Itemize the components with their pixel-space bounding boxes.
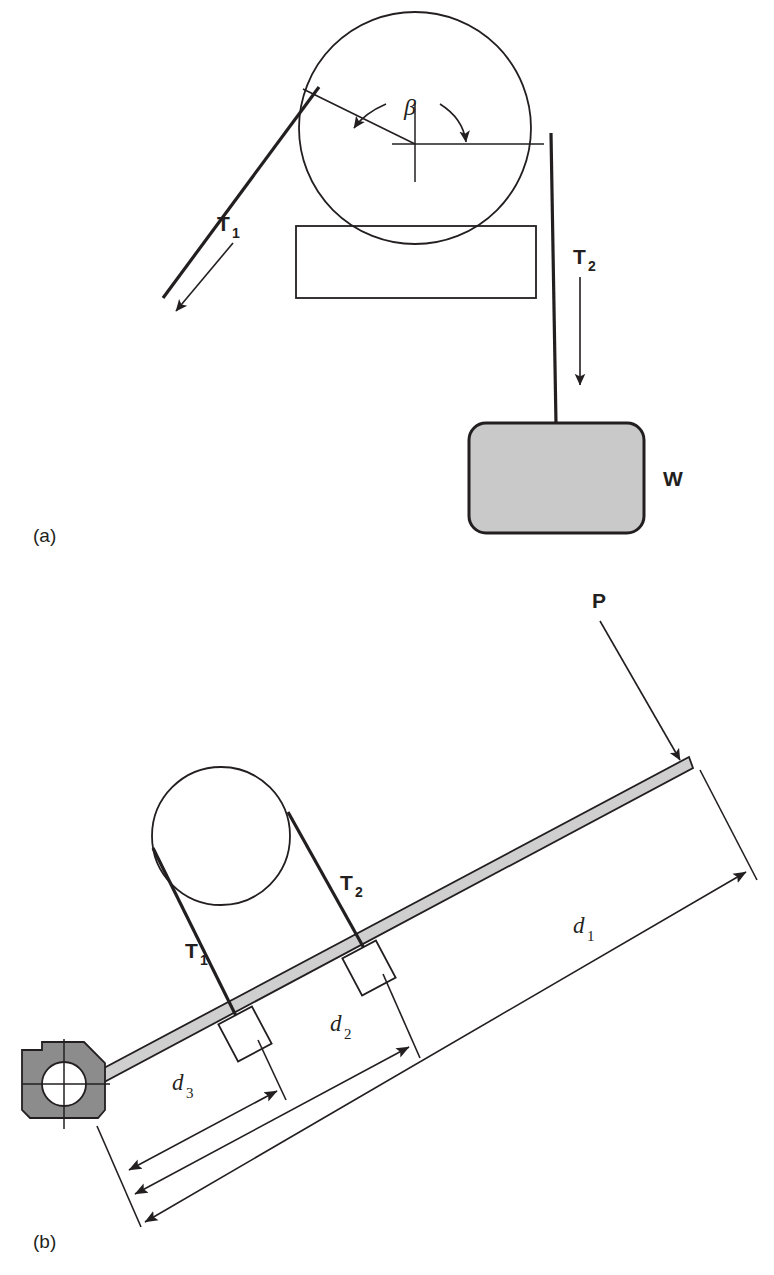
t1-label-a: T	[217, 212, 230, 235]
wrap-angle-radius-a	[303, 89, 415, 144]
lever-arm-b	[72, 757, 693, 1096]
t1-force-arrow-a	[176, 243, 233, 311]
panel-b-caption: (b)	[33, 1231, 56, 1252]
panel-b: T 1 T 2 P d 3	[22, 589, 757, 1252]
d2-subscript-b: 2	[344, 1026, 352, 1042]
band-brake-figure: β T 1 T 2 W (a)	[0, 0, 774, 1275]
t2-subscript-a: 2	[588, 258, 596, 274]
beta-label-a: β	[403, 94, 416, 120]
band-t2-b	[288, 812, 365, 950]
weight-label-a: W	[663, 467, 683, 490]
t2-label-b: T	[340, 871, 353, 894]
d1-label-b: d	[573, 913, 585, 938]
force-p-label-b: P	[592, 589, 606, 612]
support-block-a	[296, 226, 536, 298]
d2-label-b: d	[330, 1011, 342, 1036]
t1-label-b: T	[185, 939, 198, 962]
extension-line-d1-b	[700, 770, 757, 880]
band-t1-b	[153, 848, 243, 1030]
band-right-a	[551, 133, 556, 424]
extension-line-pivot-b	[97, 1126, 141, 1227]
weight-block-a	[469, 423, 644, 533]
figure-root: β T 1 T 2 W (a)	[0, 0, 774, 1275]
extension-line-d2-b	[383, 974, 420, 1058]
t2-subscript-b: 2	[355, 884, 363, 900]
panel-a: β T 1 T 2 W (a)	[33, 12, 683, 546]
extension-line-d3-b	[258, 1040, 286, 1100]
t1-subscript-b: 1	[200, 952, 208, 968]
d1-subscript-b: 1	[587, 928, 595, 944]
d3-label-b: d	[172, 1070, 184, 1095]
t1-subscript-a: 1	[232, 225, 240, 241]
panel-a-caption: (a)	[33, 525, 56, 546]
t2-label-a: T	[573, 245, 586, 268]
force-p-arrow-b	[600, 621, 680, 760]
beta-arc-right-a	[440, 104, 466, 142]
d3-subscript-b: 3	[186, 1085, 194, 1101]
